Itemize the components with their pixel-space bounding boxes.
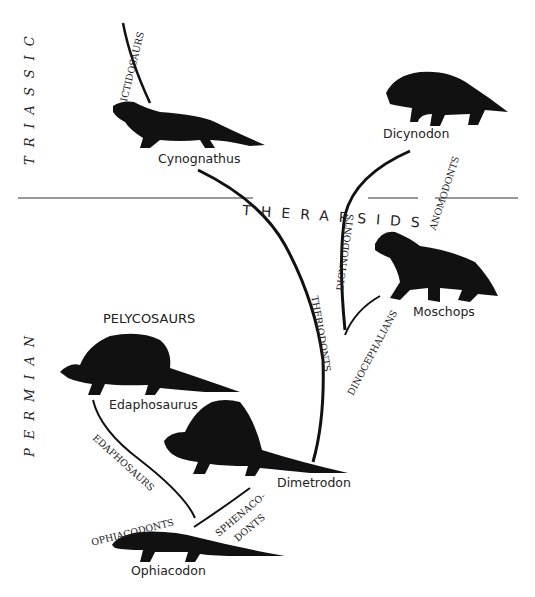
edaphosaurus-label: Edaphosaurus [109,397,198,412]
synapsid-evolution-diagram: TRIASSIC PERMIAN THERAPSIDS PELYCOSAURS … [0,0,535,597]
edaphosaurs-branch [93,400,195,518]
dicynodon-label: Dicynodon [383,126,449,141]
moschops-silhouette [375,232,498,302]
period-permian-label: PERMIAN [22,327,37,457]
cynognathus-label: Cynognathus [158,151,240,166]
pelycosaurs-label: PELYCOSAURS [103,311,195,326]
moschops-label: Moschops [413,304,475,319]
ophiacodon-label: Ophiacodon [131,563,206,578]
diagram-lines [0,0,535,597]
cynognathus-silhouette [113,102,265,149]
dimetrodon-label: Dimetrodon [277,475,351,490]
period-triassic-label: TRIASSIC [22,27,37,165]
edaphosaurus-silhouette [60,334,240,395]
dicynodon-silhouette [386,72,508,126]
dinocephalians-branch [345,296,380,335]
